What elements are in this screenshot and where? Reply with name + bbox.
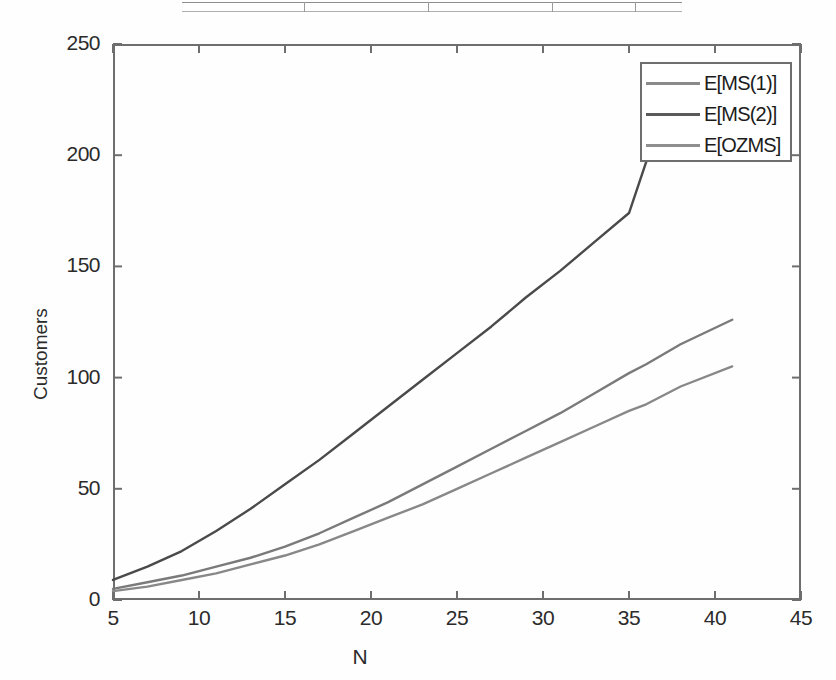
legend-label: E[OZMS] — [704, 134, 781, 157]
x-tick-label: 40 — [685, 606, 745, 630]
legend-item: E[OZMS] — [646, 130, 788, 161]
series-line — [113, 320, 732, 589]
legend-item: E[MS(2)] — [646, 99, 788, 130]
legend-swatch-icon — [646, 82, 700, 85]
legend-swatch-icon — [646, 113, 700, 116]
y-tick-label: 200 — [28, 142, 100, 166]
chart-legend: E[MS(1)] E[MS(2)] E[OZMS] — [640, 62, 792, 162]
y-tick-label: 50 — [28, 476, 100, 500]
x-tick-label: 15 — [255, 606, 315, 630]
chart-page: 250200150100500 51015202530354045 N Cust… — [0, 0, 836, 680]
x-tick-label: 20 — [341, 606, 401, 630]
legend-label: E[MS(2)] — [704, 103, 777, 126]
x-tick-label: 25 — [427, 606, 487, 630]
x-tick-label: 5 — [83, 606, 143, 630]
legend-swatch-icon — [646, 144, 700, 147]
x-tick-label: 45 — [771, 606, 831, 630]
series-line — [113, 366, 732, 591]
x-tick-label: 35 — [599, 606, 659, 630]
y-tick-label: 250 — [28, 31, 100, 55]
x-tick-label: 30 — [513, 606, 573, 630]
x-tick-label: 10 — [169, 606, 229, 630]
x-axis-title: N — [320, 645, 400, 669]
legend-label: E[MS(1)] — [704, 72, 777, 95]
y-axis-title: Customers — [30, 308, 52, 400]
y-tick-label: 150 — [28, 253, 100, 277]
legend-item: E[MS(1)] — [646, 68, 788, 99]
